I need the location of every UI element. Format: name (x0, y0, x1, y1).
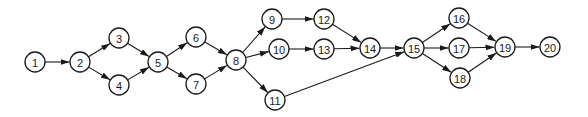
edge-5-to-7 (167, 67, 187, 79)
node-18: 18 (450, 68, 470, 88)
node-12: 12 (314, 9, 334, 29)
nodes-layer: 1234567891011121314151617181920 (25, 8, 560, 110)
node-14: 14 (360, 38, 380, 58)
node-label: 20 (544, 42, 556, 54)
node-label: 19 (499, 42, 511, 54)
node-9: 9 (262, 9, 282, 29)
edge-2-to-4 (89, 67, 110, 80)
node-label: 16 (453, 13, 465, 25)
node-label: 4 (116, 80, 122, 92)
node-label: 12 (318, 14, 330, 26)
edge-18-to-19 (468, 53, 496, 72)
node-5: 5 (148, 52, 168, 72)
edge-7-to-8 (205, 65, 227, 79)
node-15: 15 (404, 38, 424, 58)
node-1: 1 (25, 52, 45, 72)
node-label: 17 (453, 43, 465, 55)
node-label: 13 (318, 44, 330, 56)
node-label: 3 (116, 33, 122, 45)
node-8: 8 (226, 50, 246, 70)
node-label: 2 (77, 57, 83, 69)
node-label: 15 (408, 43, 420, 55)
node-label: 7 (193, 79, 199, 91)
edge-17-to-19 (469, 47, 495, 48)
node-10: 10 (269, 39, 289, 59)
network-diagram: 1234567891011121314151617181920 (0, 0, 588, 117)
edge-15-to-18 (422, 54, 451, 73)
edge-13-to-14 (334, 48, 360, 49)
edge-12-to-14 (333, 24, 362, 42)
node-label: 10 (273, 44, 285, 56)
edge-15-to-16 (422, 24, 450, 43)
node-label: 5 (155, 57, 161, 69)
edge-4-to-5 (128, 67, 149, 80)
node-label: 18 (454, 73, 466, 85)
edge-5-to-6 (166, 43, 187, 57)
node-label: 14 (364, 43, 376, 55)
node-7: 7 (186, 74, 206, 94)
node-3: 3 (109, 28, 129, 48)
node-4: 4 (109, 75, 129, 95)
node-11: 11 (265, 90, 285, 110)
node-19: 19 (495, 37, 515, 57)
node-label: 1 (32, 57, 38, 69)
edge-2-to-3 (89, 44, 111, 57)
node-6: 6 (186, 27, 206, 47)
node-label: 11 (269, 95, 280, 107)
node-16: 16 (449, 8, 469, 28)
edge-8-to-10 (246, 52, 269, 58)
edge-8-to-11 (243, 67, 268, 92)
node-label: 8 (233, 55, 239, 67)
node-label: 9 (269, 14, 275, 26)
edge-8-to-9 (243, 27, 266, 53)
edge-16-to-19 (468, 23, 497, 41)
edge-3-to-5 (128, 43, 150, 56)
edge-6-to-8 (205, 42, 227, 55)
node-13: 13 (314, 39, 334, 59)
node-label: 6 (193, 32, 199, 44)
node-17: 17 (449, 38, 469, 58)
edge-11-to-15 (284, 52, 404, 97)
node-20: 20 (540, 37, 560, 57)
node-2: 2 (70, 52, 90, 72)
